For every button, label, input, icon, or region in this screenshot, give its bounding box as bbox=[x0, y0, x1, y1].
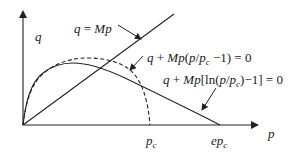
critical-state-line-equation: q = Mp bbox=[74, 21, 112, 36]
pc-tick-label: pc bbox=[145, 133, 157, 150]
epc-tick-label: epc bbox=[211, 133, 227, 150]
modified-cam-clay-curve bbox=[23, 58, 150, 125]
y-axis-label: q bbox=[35, 29, 42, 44]
x-axis-label: p bbox=[267, 126, 275, 141]
line-eq-arrow bbox=[118, 25, 141, 39]
modified-cam-clay-equation: q + Mp(p/pc −1) = 0 bbox=[147, 50, 251, 67]
mcc-eq-arrow bbox=[130, 56, 143, 70]
original-cam-clay-equation: q + Mp[ln(p/pc)−1] = 0 bbox=[163, 72, 283, 89]
yield-surface-diagram: q p pc epc q = Mp q + Mp(p/pc −1) = 0 q … bbox=[0, 0, 307, 153]
occ-eq-arrow bbox=[202, 88, 216, 110]
